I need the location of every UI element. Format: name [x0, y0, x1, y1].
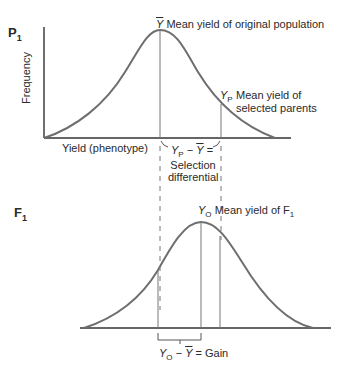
offspring-mean-annotation: YO Mean yield of F1 — [198, 204, 294, 221]
y-bar-symbol: Y — [156, 18, 163, 30]
p1-gen-letter: P — [8, 25, 17, 40]
original-mean-annotation: Y Mean yield of original population — [156, 18, 324, 30]
f1-distribution-curve — [84, 222, 313, 328]
eq-minus: − — [184, 144, 197, 156]
yo-sub: O — [205, 210, 211, 219]
selection-diagram — [0, 0, 341, 374]
original-mean-text: Mean yield of original population — [166, 18, 324, 30]
gain-equals-text: = Gain — [192, 347, 228, 359]
selected-parents-line2: selected parents — [236, 102, 317, 115]
offspring-mean-text: Mean yield of F — [215, 204, 290, 216]
p1-generation-label: P1 — [8, 25, 22, 43]
f1-generation-label: F1 — [14, 205, 27, 223]
selected-parents-annotation: Mean yield of selected parents — [236, 89, 317, 115]
offspring-mean-text-sub: 1 — [290, 210, 294, 219]
eq-equals: = — [204, 144, 213, 156]
y-axis-label: Frequency — [20, 52, 32, 104]
selected-parents-line1: Mean yield of — [236, 89, 317, 102]
selection-differential-line2: differential — [168, 171, 218, 183]
selection-differential-label: Selection differential — [168, 159, 218, 183]
p1-gen-sub: 1 — [17, 33, 22, 43]
eq-ybar: Y — [196, 144, 203, 156]
selected-parents-symbol: YP — [220, 89, 233, 106]
gain-minus: − — [173, 347, 186, 359]
x-axis-label: Yield (phenotype) — [62, 142, 148, 154]
f1-gen-letter: F — [14, 205, 22, 220]
f1-gen-sub: 1 — [22, 213, 27, 223]
selection-differential-line1: Selection — [168, 159, 218, 171]
yp-sub: P — [227, 95, 232, 104]
gain-equation: YO − Y = Gain — [159, 347, 228, 364]
gain-bracket — [158, 333, 201, 344]
